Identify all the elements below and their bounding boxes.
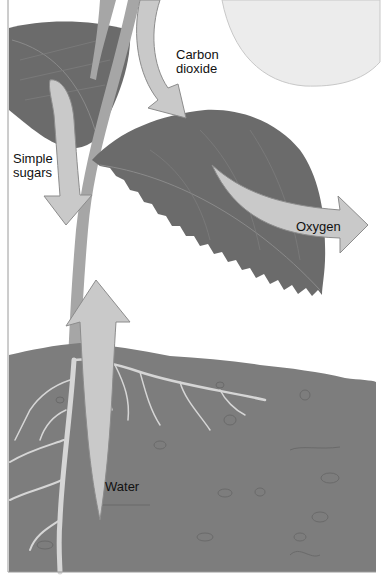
photosynthesis-diagram — [0, 0, 389, 582]
label-water: Water — [105, 480, 139, 494]
sun — [222, 0, 380, 86]
label-carbon-dioxide: Carbon dioxide — [176, 48, 219, 76]
label-simple-sugars: Simple sugars — [13, 152, 53, 180]
label-oxygen: Oxygen — [296, 220, 341, 234]
